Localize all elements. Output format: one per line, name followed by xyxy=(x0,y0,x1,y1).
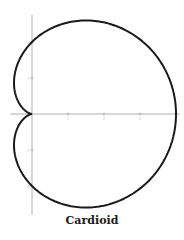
chart-title: Cardioid xyxy=(0,214,184,227)
y-tick-label: 1 xyxy=(28,76,30,81)
cardioid-plot: 123-2-112 xyxy=(0,0,184,240)
y-tick-label: -1 xyxy=(26,148,29,153)
x-tick-label: 3 xyxy=(139,116,141,121)
x-tick-label: 2 xyxy=(103,116,105,121)
x-tick-label: 1 xyxy=(67,116,69,121)
axes xyxy=(10,15,179,215)
